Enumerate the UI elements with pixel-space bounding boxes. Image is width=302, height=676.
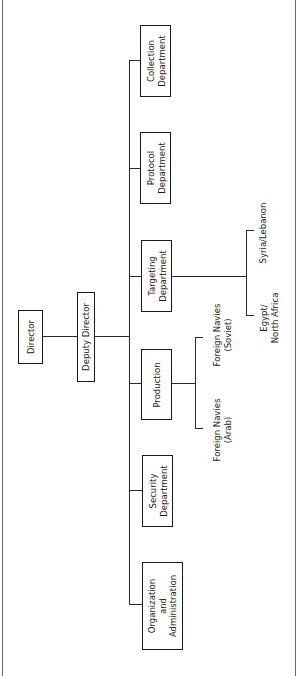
- node-collection: Collection Department: [140, 25, 171, 97]
- sub-unit-arab-line1: Foreign Navies: [212, 399, 223, 462]
- sub-unit-soviet-line2: (Soviet): [222, 304, 233, 367]
- connector-targeting: [129, 276, 141, 277]
- connector-protocol: [129, 168, 140, 169]
- node-security-line2: Department: [158, 465, 169, 516]
- production-sub-bar: [195, 337, 196, 428]
- sub-unit-egypt-text: Egypt/ North Africa: [259, 293, 280, 344]
- frame-border-left: [2, 0, 3, 676]
- sub-unit-syria-lebanon: Syria/Lebanon: [255, 200, 271, 266]
- node-security: Security Department: [142, 455, 173, 527]
- sub-unit-arab-text: Foreign Navies (Arab): [212, 399, 233, 462]
- tick-arab: [195, 428, 203, 429]
- node-collection-line2: Department: [156, 35, 167, 86]
- node-protocol-line1: Protocol: [145, 142, 156, 193]
- connector-production: [129, 383, 141, 384]
- connector-org-admin: [129, 604, 142, 605]
- targeting-sub-bar: [246, 230, 247, 316]
- trunk-line: [129, 60, 130, 605]
- node-targeting-line1: Targeting: [146, 250, 157, 301]
- node-security-label: Security Department: [147, 465, 168, 516]
- tick-egypt: [246, 315, 254, 316]
- node-targeting: Targeting Department: [141, 240, 172, 312]
- node-production-label: Production: [151, 362, 162, 407]
- node-protocol-label: Protocol Department: [145, 142, 166, 193]
- node-director-label: Director: [25, 320, 36, 354]
- node-deputy-director-label: Deputy Director: [81, 303, 92, 371]
- frame-border-right: [295, 0, 296, 676]
- sub-unit-foreign-navies-soviet: Foreign Navies (Soviet): [208, 300, 236, 370]
- sub-unit-egypt-line1: Egypt/: [259, 293, 270, 344]
- connector-deputy-trunk: [94, 336, 129, 337]
- tick-soviet: [195, 337, 203, 338]
- sub-unit-soviet-line1: Foreign Navies: [212, 304, 223, 367]
- node-org-admin-label: Organization and Administration: [147, 575, 179, 637]
- node-org-admin-line3: Administration: [168, 575, 179, 637]
- sub-unit-syria-lebanon-line1: Syria/Lebanon: [258, 203, 269, 264]
- sub-unit-syria-lebanon-text: Syria/Lebanon: [258, 203, 269, 264]
- sub-unit-foreign-navies-arab: Foreign Navies (Arab): [208, 395, 236, 465]
- node-collection-line1: Collection: [145, 35, 156, 86]
- node-production: Production: [141, 349, 172, 420]
- sub-unit-arab-line2: (Arab): [222, 399, 233, 462]
- connector-director-deputy: [42, 336, 77, 337]
- node-targeting-line2: Department: [157, 250, 168, 301]
- connector-targeting-sub: [171, 276, 246, 277]
- node-collection-label: Collection Department: [145, 35, 166, 86]
- sub-unit-soviet-text: Foreign Navies (Soviet): [212, 304, 233, 367]
- connector-collection: [129, 60, 140, 61]
- connector-security: [129, 490, 142, 491]
- node-org-admin-line1: Organization: [147, 575, 158, 637]
- node-targeting-label: Targeting Department: [146, 250, 167, 301]
- node-protocol-line2: Department: [156, 142, 167, 193]
- sub-unit-egypt-line2: North Africa: [269, 293, 280, 344]
- node-deputy-director: Deputy Director: [77, 292, 95, 382]
- node-security-line1: Security: [147, 465, 158, 516]
- node-protocol: Protocol Department: [140, 132, 171, 204]
- node-director: Director: [18, 310, 43, 364]
- node-org-admin-line2: and: [157, 575, 168, 637]
- node-org-admin: Organization and Administration: [142, 562, 183, 650]
- sub-unit-egypt-north-africa: Egypt/ North Africa: [254, 290, 284, 346]
- tick-syria-lebanon: [246, 230, 254, 231]
- connector-production-sub: [171, 383, 195, 384]
